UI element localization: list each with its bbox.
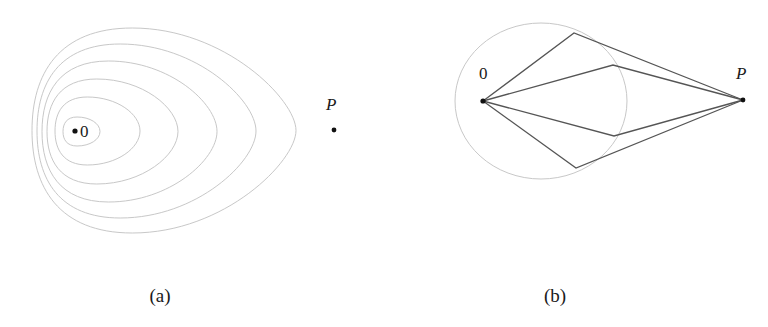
caption-a: (a): [149, 285, 170, 307]
target-label-p: P: [325, 95, 336, 114]
origin-label: 0: [479, 64, 488, 83]
path-segment: [483, 65, 743, 101]
contour-line: [42, 61, 217, 202]
origin-point: [480, 98, 485, 103]
origin-label: 0: [80, 122, 89, 141]
contour-line: [55, 97, 140, 165]
panel-b-path-diagram: 0 P (b): [455, 23, 746, 307]
caption-b: (b): [544, 285, 566, 307]
target-point-p: [741, 98, 746, 103]
origin-point: [72, 128, 77, 133]
broken-line-paths: [483, 33, 743, 168]
panel-a-contour-diagram: 0 P (a): [32, 28, 336, 307]
target-point-p: [332, 128, 337, 133]
contour-line: [47, 79, 178, 184]
figure-canvas: 0 P (a) 0 P (b): [0, 0, 768, 327]
contour-lines: [32, 28, 296, 233]
path-segment: [483, 100, 743, 168]
target-label-p: P: [735, 64, 746, 83]
path-segment: [483, 100, 743, 136]
